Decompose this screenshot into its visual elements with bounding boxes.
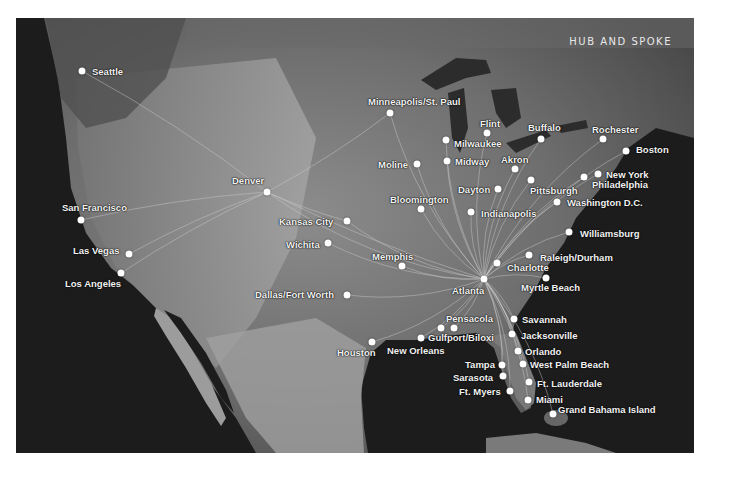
- city-label: West Palm Beach: [530, 359, 609, 370]
- city-marker-grand-bahama-island[interactable]: [550, 411, 557, 418]
- city-marker-buffalo[interactable]: [538, 136, 545, 143]
- city-label: Akron: [501, 154, 528, 165]
- city-label: Houston: [337, 347, 376, 358]
- city-marker-kansas-city[interactable]: [344, 218, 351, 225]
- city-label: Raleigh/Durham: [540, 252, 613, 263]
- city-marker-memphis[interactable]: [399, 263, 406, 270]
- city-label: Gulfport/Biloxi: [428, 332, 494, 343]
- city-label: Minneapolis/St. Paul: [368, 96, 460, 107]
- city-marker-atlanta[interactable]: [481, 276, 488, 283]
- city-marker-las-vegas[interactable]: [126, 251, 133, 258]
- city-marker-charlotte[interactable]: [494, 260, 501, 267]
- city-marker-raleigh-durham[interactable]: [526, 252, 533, 259]
- city-marker-rochester[interactable]: [600, 136, 607, 143]
- city-label: San Francisco: [62, 202, 127, 213]
- route-line: [267, 113, 390, 192]
- city-marker-philadelphia[interactable]: [581, 174, 588, 181]
- city-label: Jacksonville: [521, 330, 578, 341]
- city-marker-new-orleans[interactable]: [418, 335, 425, 342]
- city-marker-washington-d-c-[interactable]: [554, 199, 561, 206]
- city-label: Ft. Lauderdale: [537, 378, 602, 389]
- city-marker-gulfport-biloxi[interactable]: [438, 325, 445, 332]
- city-marker-pensacola[interactable]: [451, 325, 458, 332]
- city-label: Moline: [378, 159, 408, 170]
- city-label: Milwaukee: [454, 138, 502, 149]
- city-label: Tampa: [465, 359, 495, 370]
- map-title: Hub and Spoke: [569, 36, 672, 47]
- city-marker-boston[interactable]: [623, 148, 630, 155]
- city-marker-sarasota[interactable]: [500, 373, 507, 380]
- city-label: Buffalo: [528, 122, 561, 133]
- city-marker-moline[interactable]: [414, 161, 421, 168]
- city-marker-houston[interactable]: [369, 339, 376, 346]
- city-marker-midway[interactable]: [444, 158, 451, 165]
- city-label: Bloomington: [390, 194, 449, 205]
- city-label: Orlando: [525, 346, 561, 357]
- city-marker-tampa[interactable]: [499, 362, 506, 369]
- city-label: Myrtle Beach: [521, 282, 580, 293]
- city-label: Sarasota: [453, 372, 493, 383]
- route-line: [417, 164, 484, 279]
- city-label: New Orleans: [387, 345, 445, 356]
- city-label: Seattle: [92, 66, 123, 77]
- city-label: Indianapolis: [481, 208, 536, 219]
- city-marker-indianapolis[interactable]: [468, 209, 475, 216]
- city-marker-san-francisco[interactable]: [78, 217, 85, 224]
- city-label: Boston: [636, 144, 669, 155]
- city-label: Ft. Myers: [459, 386, 501, 397]
- city-marker-wichita[interactable]: [325, 240, 332, 247]
- city-label: Flint: [480, 118, 500, 129]
- route-line: [347, 221, 484, 279]
- city-label: Memphis: [372, 251, 413, 262]
- city-label: Charlotte: [507, 262, 549, 273]
- city-label: Rochester: [592, 124, 638, 135]
- city-label: Los Angeles: [65, 278, 121, 289]
- city-label: Savannah: [522, 314, 567, 325]
- city-marker-ft-myers[interactable]: [507, 388, 514, 395]
- city-marker-jacksonville[interactable]: [509, 331, 516, 338]
- city-label: Dallas/Fort Worth: [255, 289, 334, 300]
- city-label: Grand Bahama Island: [558, 404, 656, 415]
- route-line: [484, 275, 546, 279]
- city-marker-minneapolis-st-paul[interactable]: [387, 110, 394, 117]
- route-line: [267, 192, 484, 279]
- city-marker-savannah[interactable]: [511, 316, 518, 323]
- route-line: [267, 192, 484, 279]
- city-marker-orlando[interactable]: [515, 348, 522, 355]
- city-marker-flint[interactable]: [484, 130, 491, 137]
- city-marker-myrtle-beach[interactable]: [543, 275, 550, 282]
- map-canvas: Hub and Spoke SeattleMinneapolis/St. Pau…: [16, 18, 694, 453]
- city-marker-dayton[interactable]: [495, 186, 502, 193]
- city-marker-new-york[interactable]: [595, 171, 602, 178]
- city-marker-denver[interactable]: [264, 189, 271, 196]
- city-marker-pittsburgh[interactable]: [528, 177, 535, 184]
- city-label: Wichita: [286, 239, 320, 250]
- city-marker-bloomington[interactable]: [418, 206, 425, 213]
- route-line: [121, 192, 267, 273]
- city-label: Midway: [455, 156, 489, 167]
- city-marker-west-palm-beach[interactable]: [520, 361, 527, 368]
- city-marker-los-angeles[interactable]: [118, 270, 125, 277]
- city-label: Dayton: [458, 184, 490, 195]
- city-marker-milwaukee[interactable]: [443, 137, 450, 144]
- city-label: Pittsburgh: [530, 185, 578, 196]
- city-marker-seattle[interactable]: [79, 68, 86, 75]
- route-line: [82, 71, 267, 192]
- city-label: Atlanta: [452, 285, 484, 296]
- city-marker-ft-lauderdale[interactable]: [526, 379, 533, 386]
- city-label: Philadelphia: [592, 179, 648, 190]
- city-label: Kansas City: [279, 216, 333, 227]
- city-marker-dallas-fort-worth[interactable]: [344, 292, 351, 299]
- city-label: Pensacola: [446, 313, 493, 324]
- city-marker-akron[interactable]: [512, 166, 519, 173]
- city-marker-williamsburg[interactable]: [566, 229, 573, 236]
- city-label: Las Vegas: [73, 245, 119, 256]
- city-marker-miami[interactable]: [525, 397, 532, 404]
- city-label: Williamsburg: [580, 228, 640, 239]
- city-label: Washington D.C.: [567, 197, 643, 208]
- city-label: Denver: [232, 175, 264, 186]
